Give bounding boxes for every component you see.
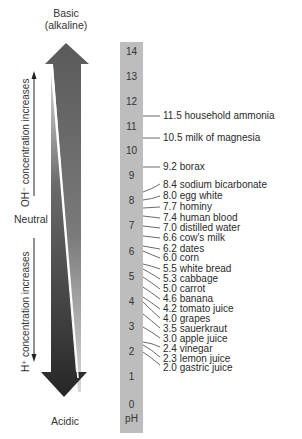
substance-borax: 9.2 borax (163, 162, 205, 172)
tick-0: 0 (120, 400, 143, 410)
h-concentration-label: H⁺ concentration increases (20, 251, 31, 372)
tick-3: 3 (120, 322, 143, 332)
basic-label: Basic (alkaline) (40, 7, 92, 31)
substance-hominy: 7.7 hominy (163, 202, 212, 212)
substance-household-ammonia: 11.5 household ammonia (163, 111, 275, 121)
oh-concentration-label: OH⁻ concentration increases (20, 79, 31, 207)
tick-6: 6 (120, 247, 143, 257)
substance-milk-of-magnesia: 10.5 milk of magnesia (163, 133, 260, 143)
tick-14: 14 (120, 47, 143, 57)
h-increase-arrow (32, 238, 37, 362)
neutral-label: Neutral (14, 213, 48, 225)
tick-1: 1 (120, 372, 143, 382)
basic-label-line2: (alkaline) (40, 19, 92, 31)
substance-egg-white: 8.0 egg white (163, 191, 223, 201)
tick-2: 2 (120, 347, 143, 357)
substance-corn: 6.0 corn (163, 253, 199, 263)
tick-12: 12 (120, 97, 143, 107)
substance-cows-milk: 6.6 cow's milk (163, 233, 225, 243)
substance-sodium-bicarbonate: 8.4 sodium bicarbonate (163, 180, 267, 190)
substance-gastric-juice: 2.0 gastric juice (163, 363, 232, 373)
tick-8: 8 (120, 196, 143, 206)
acidic-label: Acidic (40, 415, 90, 427)
tick-4: 4 (120, 297, 143, 307)
tick-9: 9 (120, 171, 143, 181)
connector-lines (143, 116, 160, 365)
ph-scale-bar: 14 13 12 11 10 9 8 7 6 5 4 3 2 1 0 pH (120, 42, 143, 433)
basic-label-line1: Basic (40, 7, 92, 19)
tick-11: 11 (120, 122, 143, 132)
oh-increase-arrow (32, 71, 37, 196)
tick-13: 13 (120, 72, 143, 82)
ph-unit-label: pH (120, 413, 143, 424)
tick-10: 10 (120, 146, 143, 156)
tick-7: 7 (120, 221, 143, 231)
tick-5: 5 (120, 272, 143, 282)
